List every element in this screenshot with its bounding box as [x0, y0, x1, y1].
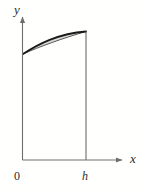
- lens-lower-chord-curve: [23, 32, 86, 55]
- x-axis-label: x: [129, 151, 136, 166]
- coordinate-axes-diagram: y x 0 h: [0, 0, 143, 192]
- origin-label: 0: [14, 169, 20, 183]
- figure-container: y x 0 h: [0, 0, 143, 192]
- lens-upper-curve: [23, 32, 86, 55]
- shaded-lens-region: [23, 32, 86, 55]
- x-tick-label-h: h: [82, 169, 88, 183]
- y-axis-label: y: [12, 2, 20, 17]
